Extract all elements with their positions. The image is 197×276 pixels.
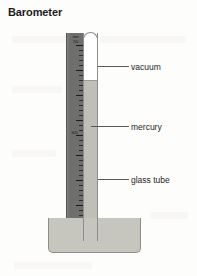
- glass-tube-leader-line: [98, 179, 129, 180]
- reservoir-lip-right: [140, 218, 141, 222]
- scale-top-value-label: 700: [69, 40, 82, 44]
- tube-wall-in-reservoir-left: [83, 218, 84, 241]
- tube-wall-in-reservoir-right: [97, 218, 98, 241]
- scale-tick-major: [76, 135, 83, 136]
- barometer-figure: Barometer mm 700 600: [0, 0, 197, 276]
- scale-unit-label: mm: [69, 35, 82, 39]
- mercury-label: mercury: [131, 122, 162, 132]
- page-ghost-artifact: [150, 212, 188, 219]
- scale-tick-major: [76, 120, 83, 121]
- scale-strip-sheen: [67, 33, 71, 223]
- vacuum-leader-line: [98, 66, 129, 67]
- figure-title: Barometer: [8, 6, 62, 18]
- scale-tick-major: [76, 155, 83, 156]
- scale-tick-major: [76, 95, 83, 96]
- reservoir-lip-left: [48, 218, 49, 222]
- vacuum-label: vacuum: [131, 62, 161, 72]
- scale-tick-major: [76, 45, 83, 46]
- page-ghost-artifact: [100, 36, 186, 43]
- page-ghost-artifact: [14, 262, 92, 269]
- page-ghost-artifact: [12, 150, 56, 157]
- scale-tick-major: [76, 70, 83, 71]
- page-ghost-artifact: [12, 36, 70, 43]
- mercury-reservoir-dish: [48, 218, 141, 253]
- vacuum-region: [84, 38, 97, 80]
- measurement-scale-strip: mm 700 600: [66, 33, 83, 223]
- page-ghost-artifact: [12, 86, 62, 93]
- mercury-leader-line: [91, 126, 129, 127]
- scale-tick-major: [76, 205, 83, 206]
- scale-tick-major: [76, 180, 83, 181]
- glass-tube-label: glass tube: [131, 175, 170, 185]
